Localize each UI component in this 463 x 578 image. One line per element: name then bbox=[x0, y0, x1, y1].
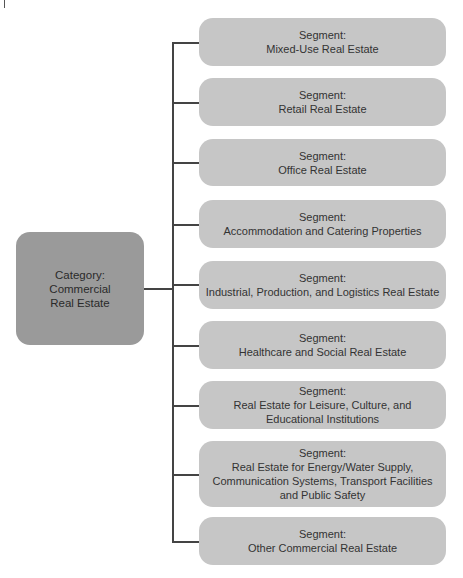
segment-label: Segment: bbox=[299, 527, 346, 541]
segment-label: Segment: bbox=[299, 384, 346, 398]
segment-connector bbox=[172, 284, 199, 286]
segment-connector bbox=[172, 345, 199, 347]
segment-name: Office Real Estate bbox=[278, 163, 366, 177]
segment-label: Segment: bbox=[299, 446, 346, 460]
segment-name-line3: and Public Safety bbox=[280, 488, 366, 502]
trunk-connector bbox=[172, 42, 174, 542]
segment-name-line1: Real Estate for Energy/Water Supply, bbox=[232, 460, 414, 474]
segment-label: Segment: bbox=[299, 149, 346, 163]
segment-connector bbox=[172, 474, 199, 476]
segment-box-other: Segment: Other Commercial Real Estate bbox=[199, 517, 446, 565]
segment-connector bbox=[172, 42, 199, 44]
segment-label: Segment: bbox=[299, 210, 346, 224]
segment-connector bbox=[172, 162, 199, 164]
category-name-line2: Real Estate bbox=[50, 296, 109, 310]
segment-name: Other Commercial Real Estate bbox=[248, 541, 397, 555]
segment-connector bbox=[172, 224, 199, 226]
segment-name-line2: Educational Institutions bbox=[266, 412, 379, 426]
segment-connector bbox=[172, 541, 199, 543]
page-corner-mark bbox=[4, 0, 5, 8]
segment-name: Accommodation and Catering Properties bbox=[223, 224, 421, 238]
category-box: Category: Commercial Real Estate bbox=[16, 232, 144, 345]
segment-name: Retail Real Estate bbox=[278, 102, 366, 116]
segment-name: Industrial, Production, and Logistics Re… bbox=[206, 285, 440, 299]
segment-label: Segment: bbox=[299, 271, 346, 285]
segment-name-line2: Communication Systems, Transport Facilit… bbox=[212, 474, 432, 488]
segment-box-healthcare: Segment: Healthcare and Social Real Esta… bbox=[199, 321, 446, 369]
segment-connector bbox=[172, 405, 199, 407]
segment-label: Segment: bbox=[299, 331, 346, 345]
category-name-line1: Commercial bbox=[49, 282, 110, 296]
segment-box-accommodation: Segment: Accommodation and Catering Prop… bbox=[199, 200, 446, 248]
segment-connector bbox=[172, 102, 199, 104]
segment-name-line1: Real Estate for Leisure, Culture, and bbox=[234, 398, 412, 412]
segment-label: Segment: bbox=[299, 28, 346, 42]
segment-box-retail: Segment: Retail Real Estate bbox=[199, 78, 446, 126]
segment-box-energy-infrastructure: Segment: Real Estate for Energy/Water Su… bbox=[199, 441, 446, 507]
segment-box-office: Segment: Office Real Estate bbox=[199, 139, 446, 186]
segment-name: Mixed-Use Real Estate bbox=[266, 42, 379, 56]
segment-name: Healthcare and Social Real Estate bbox=[239, 345, 407, 359]
segment-label: Segment: bbox=[299, 88, 346, 102]
segment-box-industrial: Segment: Industrial, Production, and Log… bbox=[199, 261, 446, 309]
segment-box-leisure: Segment: Real Estate for Leisure, Cultur… bbox=[199, 381, 446, 429]
segment-box-mixed-use: Segment: Mixed-Use Real Estate bbox=[199, 18, 446, 66]
category-connector bbox=[144, 288, 173, 290]
category-label: Category: bbox=[55, 268, 105, 282]
